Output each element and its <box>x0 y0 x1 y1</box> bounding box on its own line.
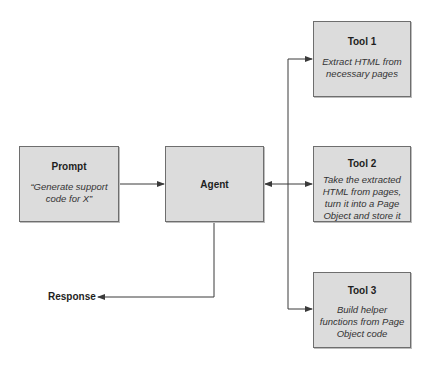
prompt-title: Prompt <box>52 161 87 172</box>
tool3-node: Tool 3 Build helper functions from Page … <box>313 272 411 348</box>
agent-title: Agent <box>200 179 228 190</box>
tool3-description: Build helper functions from Page Object … <box>317 304 407 340</box>
prompt-node: Prompt “Generate support code for X” <box>19 146 119 222</box>
prompt-description: “Generate support code for X” <box>29 181 109 205</box>
response-label: Response <box>48 291 96 302</box>
tool1-node: Tool 1 Extract HTML from necessary pages <box>313 21 411 97</box>
tool2-description: Take the extracted HTML from pages, turn… <box>316 174 408 222</box>
edge-agent-response <box>98 222 214 297</box>
tool3-title: Tool 3 <box>348 285 377 296</box>
tool2-title: Tool 2 <box>348 158 377 169</box>
tool1-description: Extract HTML from necessary pages <box>320 56 404 80</box>
agent-node: Agent <box>165 146 264 222</box>
tool2-node: Tool 2 Take the extracted HTML from page… <box>313 146 411 222</box>
tool1-title: Tool 1 <box>348 36 377 47</box>
